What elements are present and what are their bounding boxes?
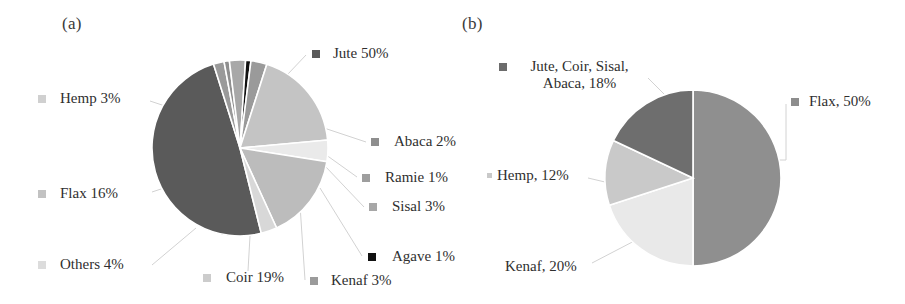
legend-label-coir: Coir 19%	[226, 269, 284, 286]
pie-slice-b-flax	[693, 90, 781, 266]
pie-slice-a-hemp	[240, 148, 277, 233]
legend-label-abaca: Abaca 2%	[394, 133, 456, 150]
legend-swatch-bundle-b	[499, 63, 507, 71]
leader-lines-chart-a	[150, 55, 366, 280]
legend-swatch-hemp-b	[487, 173, 492, 178]
panel-label-b: (b)	[462, 14, 483, 34]
legend-label-hemp-b: Hemp, 12%	[497, 167, 569, 184]
pie-slice-b-bundle	[613, 90, 693, 178]
legend-swatch-others	[38, 261, 46, 269]
pie-slice-a-sisal	[229, 60, 245, 148]
legend-swatch-jute	[312, 50, 320, 58]
pie-slice-a-flax	[240, 148, 327, 228]
pie-slice-a-others	[240, 140, 328, 162]
legend-label-kenaf-b: Kenaf, 20%	[505, 258, 577, 275]
legend-swatch-sisal	[369, 203, 377, 211]
legend-label-flax-a: Flax 16%	[60, 185, 118, 202]
pie-chart-a-slices	[152, 60, 328, 236]
legend-swatch-ramie	[362, 174, 370, 182]
legend-swatch-flax-b	[791, 98, 799, 106]
panel-label-a: (a)	[62, 14, 82, 34]
legend-label-sisal: Sisal 3%	[392, 198, 445, 215]
pie-slice-b-hemp	[605, 141, 693, 206]
leader-lines-chart-b	[588, 78, 786, 263]
legend-label-jute: Jute 50%	[333, 45, 388, 62]
figure-two-pie-charts: (a) (b) Jute 50% Hemp 3% Flax 16% Others…	[0, 0, 905, 304]
legend-label-bundle-b: Jute, Coir, Sisal, Abaca, 18%	[512, 58, 647, 92]
pie-slice-a-kenaf	[240, 61, 267, 148]
legend-swatch-hemp-a	[38, 95, 46, 103]
pie-slice-b-kenaf	[609, 178, 693, 266]
legend-swatch-coir	[203, 274, 211, 282]
legend-label-kenaf-a: Kenaf 3%	[331, 272, 391, 289]
pie-slice-a-coir	[240, 64, 328, 148]
pie-slice-a-jute	[152, 64, 261, 236]
pie-slice-a-agave	[240, 60, 251, 148]
legend-swatch-agave	[368, 253, 376, 261]
legend-swatch-abaca	[371, 138, 379, 146]
pie-slice-a-abaca	[213, 61, 240, 148]
legend-label-flax-b: Flax, 50%	[809, 93, 871, 110]
legend-swatch-kenaf-a	[310, 277, 318, 285]
legend-label-others: Others 4%	[60, 256, 124, 273]
legend-label-agave: Agave 1%	[392, 248, 455, 265]
pie-slice-a-ramie	[224, 61, 240, 148]
legend-label-hemp-a: Hemp 3%	[60, 90, 120, 107]
legend-swatch-flax-a	[38, 190, 46, 198]
legend-label-ramie: Ramie 1%	[385, 169, 448, 186]
pie-chart-b-slices	[605, 90, 781, 266]
